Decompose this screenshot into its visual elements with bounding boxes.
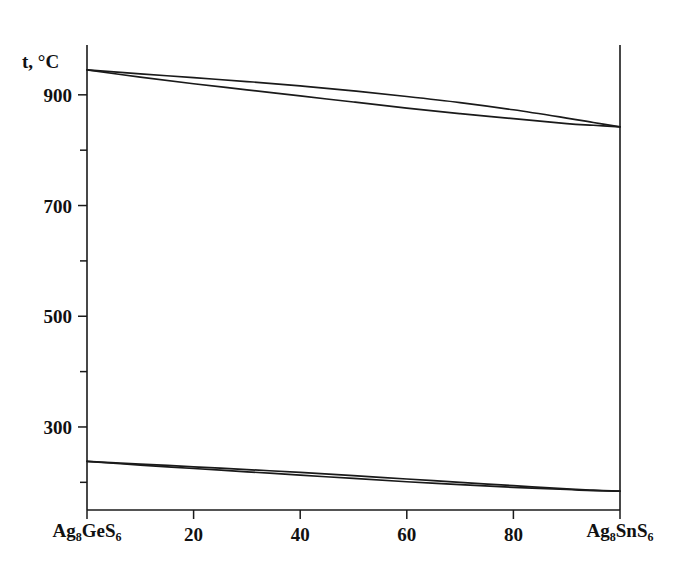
right-formula-sns: SnS xyxy=(616,520,648,541)
right-sub-6: 6 xyxy=(647,530,653,544)
curve-liquidus xyxy=(87,70,620,127)
y-tick-label-group: 300500700900 xyxy=(44,85,73,438)
left-formula-ag: Ag xyxy=(52,520,76,541)
right-formula-ag: Ag xyxy=(587,520,611,541)
x-tick-label-20: 20 xyxy=(184,524,203,545)
y-tick-label-500: 500 xyxy=(44,306,73,327)
curve-group xyxy=(87,70,620,491)
x-axis-endmember-left: Ag8GeS6 xyxy=(52,520,121,544)
x-tick-group xyxy=(87,510,620,519)
y-tick-group xyxy=(78,95,87,483)
phase-diagram-figure: 300500700900 20406080 t, °C Ag8GeS6 Ag8S… xyxy=(0,0,680,573)
left-formula-ges: GeS xyxy=(82,520,116,541)
axes-group xyxy=(87,45,620,510)
x-tick-label-60: 60 xyxy=(397,524,416,545)
curve-solidus xyxy=(87,70,620,127)
x-tick-label-80: 80 xyxy=(504,524,523,545)
phase-diagram-svg: 300500700900 20406080 t, °C Ag8GeS6 Ag8S… xyxy=(0,0,680,573)
y-axis-title: t, °C xyxy=(22,51,59,72)
y-tick-label-900: 900 xyxy=(44,85,73,106)
y-tick-label-300: 300 xyxy=(44,417,73,438)
left-sub-6: 6 xyxy=(116,530,122,544)
x-tick-label-group: 20406080 xyxy=(184,524,523,545)
y-tick-label-700: 700 xyxy=(44,196,73,217)
x-tick-label-40: 40 xyxy=(291,524,310,545)
curve-transition-upper xyxy=(87,461,620,491)
x-axis-endmember-right: Ag8SnS6 xyxy=(587,520,654,544)
